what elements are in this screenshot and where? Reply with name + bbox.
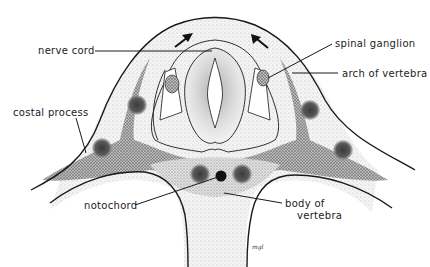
label-body-of-vertebra-2: vertebra [297,210,342,221]
label-notochord: notochord [84,200,137,211]
label-body-of-vertebra-1: body of [285,198,325,209]
label-nerve-cord: nerve cord [38,45,95,56]
label-costal-process: costal process [13,107,88,118]
label-arch-of-vertebra: arch of vertebra [342,68,428,79]
label-spinal-ganglion: spinal ganglion [335,38,415,49]
artist-signature: mgl [252,243,263,250]
notochord [216,171,227,182]
leader-costal-process [76,118,86,153]
